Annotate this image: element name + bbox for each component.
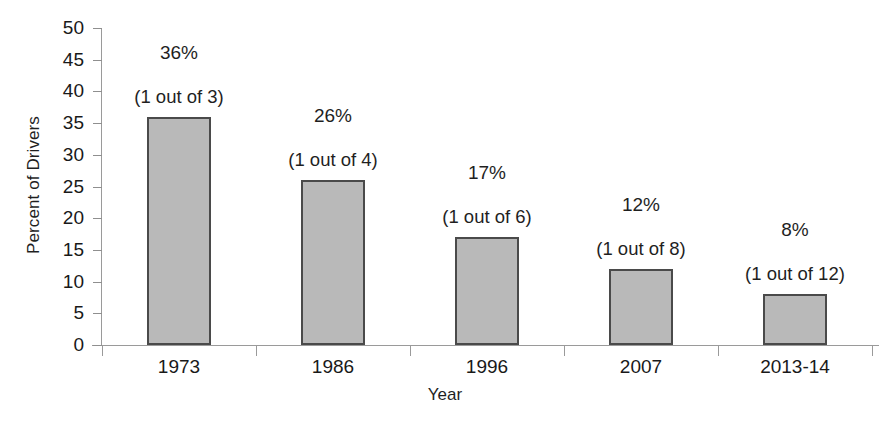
bar: [609, 269, 673, 345]
y-axis-tick-mark: [93, 155, 102, 156]
bar-chart: Percent of Drivers 50454035302520151050 …: [0, 0, 890, 428]
y-axis-tick-mark: [93, 218, 102, 219]
bar: [455, 237, 519, 345]
bar-annotation-label: (1 out of 6): [397, 207, 577, 227]
bar-annotation-label: (1 out of 12): [705, 264, 885, 284]
y-axis-tick-mark: [93, 187, 102, 188]
x-axis-title: Year: [0, 385, 890, 405]
y-axis-tick-label: 20: [44, 208, 84, 227]
y-axis-tick-mark: [93, 282, 102, 283]
bar-value-label: 36%: [89, 43, 269, 63]
bar: [301, 180, 365, 345]
x-axis-tick-mark: [564, 346, 565, 356]
x-axis-category-label: 2013-14: [705, 357, 885, 377]
y-axis-tick-label: 15: [44, 240, 84, 259]
bar-value-label: 12%: [551, 195, 731, 215]
x-axis-tick-mark: [718, 346, 719, 356]
bar-annotation-label: (1 out of 4): [243, 150, 423, 170]
y-axis-tick-label: 30: [44, 145, 84, 164]
y-axis-tick-label: 10: [44, 272, 84, 291]
x-axis-line: [92, 345, 879, 346]
y-axis-tick-label: 0: [44, 335, 84, 354]
y-axis-tick-mark: [93, 250, 102, 251]
y-axis-tick-label: 25: [44, 177, 84, 196]
x-axis-category-label: 1996: [397, 357, 577, 377]
y-axis-tick-label: 35: [44, 113, 84, 132]
y-axis-tick-label: 40: [44, 81, 84, 100]
x-axis-category-label: 1986: [243, 357, 423, 377]
x-axis-tick-mark: [256, 346, 257, 356]
y-axis-tick-mark: [93, 123, 102, 124]
bar-value-label: 8%: [705, 220, 885, 240]
y-axis-tick-label: 50: [44, 18, 84, 37]
bar-annotation-label: (1 out of 8): [551, 239, 731, 259]
y-axis-tick-mark: [93, 28, 102, 29]
bar: [763, 294, 827, 345]
bar-value-label: 26%: [243, 106, 423, 126]
x-axis-tick-mark: [872, 346, 873, 356]
bar: [147, 117, 211, 345]
y-axis-tick-label: 45: [44, 50, 84, 69]
y-axis-tick-mark: [93, 345, 102, 346]
x-axis-tick-mark: [102, 346, 103, 356]
y-axis-tick-mark: [93, 313, 102, 314]
x-axis-category-label: 1973: [89, 357, 269, 377]
y-axis-tick-label: 5: [44, 303, 84, 322]
y-axis-tick-labels: 50454035302520151050: [42, 0, 84, 428]
x-axis-category-label: 2007: [551, 357, 731, 377]
bar-annotation-label: (1 out of 3): [89, 87, 269, 107]
x-axis-tick-mark: [410, 346, 411, 356]
bar-value-label: 17%: [397, 163, 577, 183]
y-axis-title: Percent of Drivers: [24, 65, 44, 305]
